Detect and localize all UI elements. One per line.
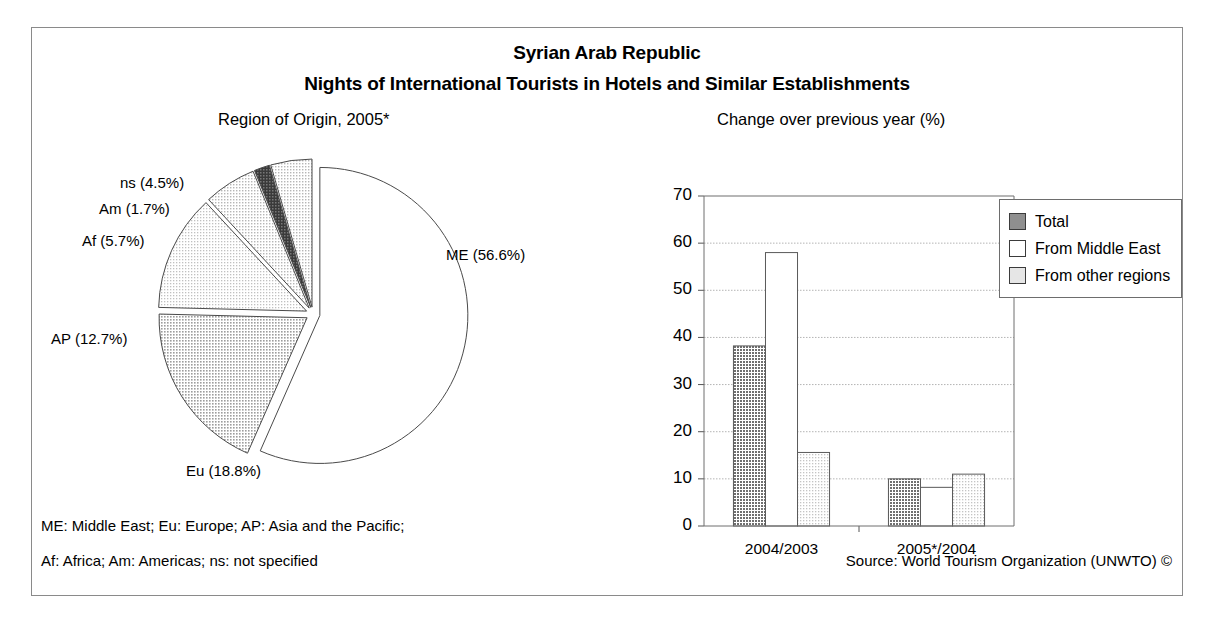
x-axis-label-1: 2004/2003 [712,540,852,558]
pie-label-af: Af (5.7%) [82,232,145,249]
bar-middle-east-1 [765,253,797,526]
pie-label-me: ME (56.6%) [446,246,525,263]
page-subtitle: Nights of International Tourists in Hote… [32,73,1182,95]
y-axis-label-30: 30 [652,374,692,394]
pie-panel-title: Region of Origin, 2005* [218,110,390,129]
legend-label-other-regions: From other regions [1035,268,1170,284]
bar-middle-east-2 [920,487,952,526]
chart-figure: Syrian Arab Republic Nights of Internati… [31,27,1183,596]
legend-item-middle-east: From Middle East [1009,235,1170,262]
y-axis-label-70: 70 [652,185,692,205]
bar-chart-panel: 706050403020100 2004/20032005*/2004 Tota… [602,136,1184,556]
bar-series-group [733,253,984,526]
legend-swatch-other-regions [1009,267,1026,284]
y-axis-label-0: 0 [652,515,692,535]
bar-total-1 [733,346,765,526]
footnote-abbreviations-line1: ME: Middle East; Eu: Europe; AP: Asia an… [41,517,405,534]
pie-label-eu: Eu (18.8%) [186,462,261,479]
pie-label-am: Am (1.7%) [99,200,170,217]
legend-swatch-middle-east [1009,240,1026,257]
y-axis-label-10: 10 [652,468,692,488]
pie-label-ap: AP (12.7%) [51,330,127,347]
y-axis-label-60: 60 [652,232,692,252]
legend-label-middle-east: From Middle East [1035,241,1160,257]
y-axis-label-20: 20 [652,421,692,441]
pie-label-ns: ns (4.5%) [120,174,184,191]
y-axis-label-40: 40 [652,326,692,346]
source-note: Source: World Tourism Organization (UNWT… [846,552,1172,569]
legend-label-total: Total [1035,214,1069,230]
legend-item-other-regions: From other regions [1009,262,1170,289]
bar-total-2 [888,479,920,526]
page-title: Syrian Arab Republic [32,42,1182,64]
pie-chart-panel: ns (4.5%) Am (1.7%) Af (5.7%) AP (12.7%)… [32,136,602,496]
y-axis-label-50: 50 [652,279,692,299]
bar-other-regions-1 [798,452,830,526]
bar-other-regions-2 [953,474,985,526]
pie-chart-svg [32,136,602,496]
bar-panel-title: Change over previous year (%) [717,110,945,129]
legend-swatch-total [1009,213,1026,230]
footnote-abbreviations-line2: Af: Africa; Am: Americas; ns: not specif… [41,552,318,569]
legend-item-total: Total [1009,208,1170,235]
chart-legend: Total From Middle East From other region… [999,199,1182,298]
